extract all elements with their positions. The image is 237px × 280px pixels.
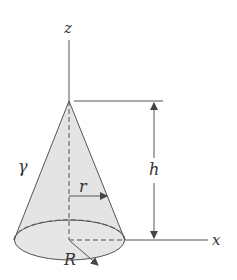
cone-diagram: z x h γ r R <box>0 0 237 280</box>
x-axis-label: x <box>212 231 221 249</box>
slant-surface-label: γ <box>18 157 28 176</box>
cone-body <box>14 101 125 260</box>
base-radius-label: R <box>63 250 76 269</box>
cross-section-radius-label: r <box>79 177 88 196</box>
z-axis-label: z <box>63 19 72 37</box>
height-label: h <box>149 160 159 179</box>
